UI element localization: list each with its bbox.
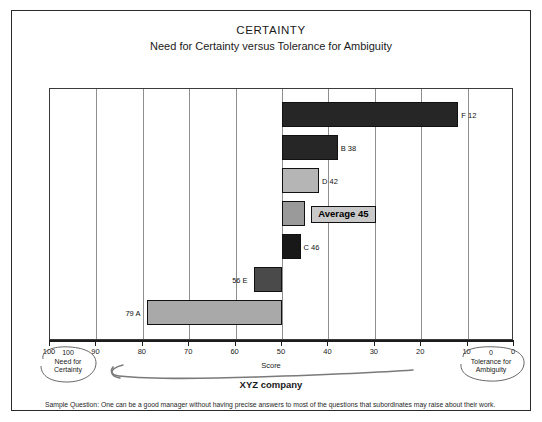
bar-label-d: D 42 <box>322 177 338 186</box>
axis-tick-label: 60 <box>230 347 238 356</box>
left-pole-line1: Need for <box>37 358 99 367</box>
axis-tick <box>374 340 375 346</box>
right-pole-callout: 0 Tolerance for Ambiguity <box>455 345 527 375</box>
bar-b <box>282 135 338 160</box>
right-pole-value: 0 <box>455 349 527 358</box>
plot-area: F 12B 38D 42Average 45C 4656 E79 A <box>49 88 513 340</box>
bar-label-e: 56 E <box>232 276 247 285</box>
axis-tick-label: 40 <box>323 347 331 356</box>
axis-tick <box>327 340 328 346</box>
bar-label-c: C 46 <box>304 243 320 252</box>
axis-tick <box>188 340 189 346</box>
chart-screenshot: CERTAINTY Need for Certainty versus Tole… <box>0 0 542 422</box>
left-pole-callout: 100 Need for Certainty <box>37 345 99 375</box>
bar-average <box>282 201 305 226</box>
axis-tick-label: 20 <box>416 347 424 356</box>
axis-tick-label: 80 <box>138 347 146 356</box>
bar-c <box>282 234 301 259</box>
left-pole-value: 100 <box>37 349 99 358</box>
bar-label-f: F 12 <box>461 111 476 120</box>
chart-title: CERTAINTY <box>12 23 530 38</box>
document-frame: CERTAINTY Need for Certainty versus Tole… <box>11 10 531 411</box>
chart-title-block: CERTAINTY Need for Certainty versus Tole… <box>12 23 530 54</box>
right-pole-line1: Tolerance for <box>455 358 527 367</box>
bar-a <box>147 300 282 325</box>
gridline <box>96 89 97 339</box>
axis-tick-label: 70 <box>184 347 192 356</box>
gridline <box>143 89 144 339</box>
left-pole-line2: Certainty <box>37 366 99 375</box>
average-marker-label: Average 45 <box>311 206 375 223</box>
plot-wrap: F 12B 38D 42Average 45C 4656 E79 A <box>49 88 513 340</box>
bar-e <box>254 267 282 292</box>
right-pole-line2: Ambiguity <box>455 366 527 375</box>
axis-tick-label: 30 <box>370 347 378 356</box>
gridline <box>468 89 469 339</box>
footnote: Sample Question: One can be a good manag… <box>45 400 510 409</box>
bar-label-b: B 38 <box>341 144 356 153</box>
bar-d <box>282 168 319 193</box>
axis-tick-label: 50 <box>277 347 285 356</box>
axis-tick <box>420 340 421 346</box>
chart-subtitle: Need for Certainty versus Tolerance for … <box>12 39 530 54</box>
axis-tick <box>281 340 282 346</box>
bar-label-a: 79 A <box>125 309 140 318</box>
bar-f <box>282 102 458 127</box>
axis-tick <box>235 340 236 346</box>
axis-tick <box>142 340 143 346</box>
xyz-company-label: XYZ company <box>12 379 530 390</box>
